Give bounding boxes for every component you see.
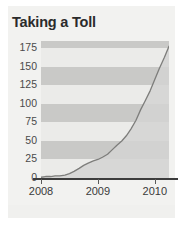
- y-axis-tick-label: 125: [19, 79, 37, 90]
- x-axis-line: [33, 178, 178, 180]
- x-axis-tick-mark: [155, 179, 156, 184]
- x-axis-tick-label: 2009: [86, 185, 110, 197]
- x-axis-tick-mark: [98, 179, 99, 184]
- y-axis-tick-label: 75: [25, 116, 37, 127]
- data-series-line: [41, 41, 169, 178]
- y-axis-tick-label: 175: [19, 42, 37, 53]
- y-axis-tick-label: 50: [25, 135, 37, 146]
- x-axis-tick-mark: [41, 179, 42, 184]
- y-axis-tick-label: 100: [19, 98, 37, 109]
- y-axis-tick-label: 25: [25, 153, 37, 164]
- y-axis-tick-labels: 1751501251007550250: [8, 41, 39, 178]
- x-axis-tick-label: 2008: [29, 185, 53, 197]
- series-area-fill: [41, 46, 169, 178]
- x-axis-tick-label: 2010: [143, 185, 167, 197]
- plot-area: [41, 41, 169, 178]
- chart-title: Taking a Toll: [12, 14, 96, 30]
- plot-frame: 1751501251007550250 200820092010: [8, 36, 175, 186]
- card-bottom-area: [8, 205, 175, 218]
- y-axis-tick-label: 150: [19, 61, 37, 72]
- chart-figure: Taking a Toll 1751501251007550250 200820…: [0, 0, 183, 225]
